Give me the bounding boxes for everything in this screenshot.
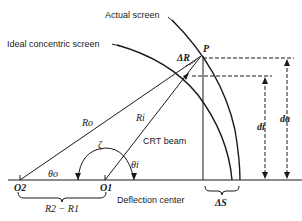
r2-minus-r1-label: R2 − R1	[45, 204, 79, 214]
actual-screen-label: Actual screen	[105, 11, 160, 20]
theta-o-label: θo	[48, 169, 58, 179]
crt-beam-label: CRT beam	[143, 137, 186, 146]
zeta-label: ζ	[98, 140, 102, 150]
delta-s-brace	[205, 186, 239, 195]
delta-s-label: ΔS	[215, 198, 227, 208]
di-label: di	[257, 122, 265, 132]
ri-label: Ri	[136, 113, 145, 123]
r2-r1-brace	[18, 192, 106, 202]
di-arrow-up	[262, 77, 268, 84]
o1-label: O1	[100, 183, 112, 193]
ro-line	[20, 56, 201, 180]
o2-label: O2	[14, 183, 26, 193]
delta-r-label: ΔR	[177, 53, 190, 63]
theta-i-label: θi	[131, 160, 139, 170]
zeta-arrow-left	[75, 173, 81, 180]
deflection-center-label: Deflection center	[117, 196, 185, 205]
ro-label: Ro	[82, 118, 93, 128]
di-arrow-down	[262, 172, 268, 179]
zeta-arrow-right	[131, 173, 137, 180]
ri-arrowhead	[183, 73, 189, 80]
da-arrow-up	[284, 59, 290, 66]
da-label: da	[280, 114, 290, 124]
actual-screen-pointer	[168, 17, 176, 24]
da-arrow-down	[284, 172, 290, 179]
point-p-label: P	[203, 44, 209, 54]
ideal-screen-label: Ideal concentric screen	[7, 40, 100, 49]
crt-screen-geometry-diagram	[0, 0, 302, 221]
